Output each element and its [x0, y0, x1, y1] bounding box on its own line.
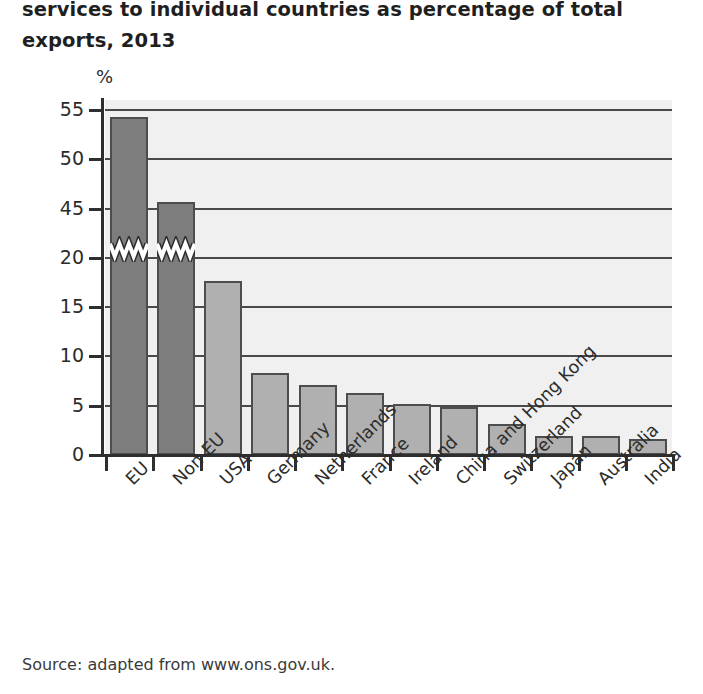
y-axis-tick-mark: [89, 306, 102, 309]
y-axis-tick-mark: [89, 454, 102, 457]
x-axis-label-usa: USA: [217, 450, 255, 488]
y-axis-tick-label: 0: [24, 445, 84, 464]
y-axis-tick-mark: [89, 158, 102, 161]
y-axis-tick-mark: [89, 355, 102, 358]
x-axis-label-eu: EU: [123, 459, 152, 488]
y-axis-tick-label: 5: [24, 396, 84, 415]
y-axis-tick-mark: [89, 257, 102, 260]
y-axis-tick-mark: [89, 405, 102, 408]
y-axis-tick-mark: [89, 208, 102, 211]
y-axis-tick-label: 20: [24, 248, 84, 267]
x-axis-tick-mark: [152, 457, 155, 471]
x-axis-tick-mark: [105, 457, 108, 471]
source-note: Source: adapted from www.ons.gov.uk.: [22, 655, 335, 674]
y-axis-line: [101, 98, 104, 457]
y-axis-tick-label: 55: [24, 100, 84, 119]
y-axis-unit-label: %: [96, 66, 113, 87]
y-axis-tick-mark: [89, 109, 102, 112]
bar-chart: % 05101520455055 EUNon-EUUSAGermanyNethe…: [0, 0, 703, 694]
y-axis-tick-label: 50: [24, 149, 84, 168]
y-axis-tick-label: 10: [24, 346, 84, 365]
y-axis-tick-label: 15: [24, 297, 84, 316]
y-axis-tick-label: 45: [24, 199, 84, 218]
